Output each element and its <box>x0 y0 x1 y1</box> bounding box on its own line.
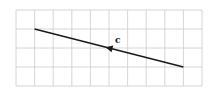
arrowhead-icon <box>106 45 114 52</box>
vector-label: c <box>115 35 121 45</box>
vector-grid-diagram: c <box>0 0 210 92</box>
